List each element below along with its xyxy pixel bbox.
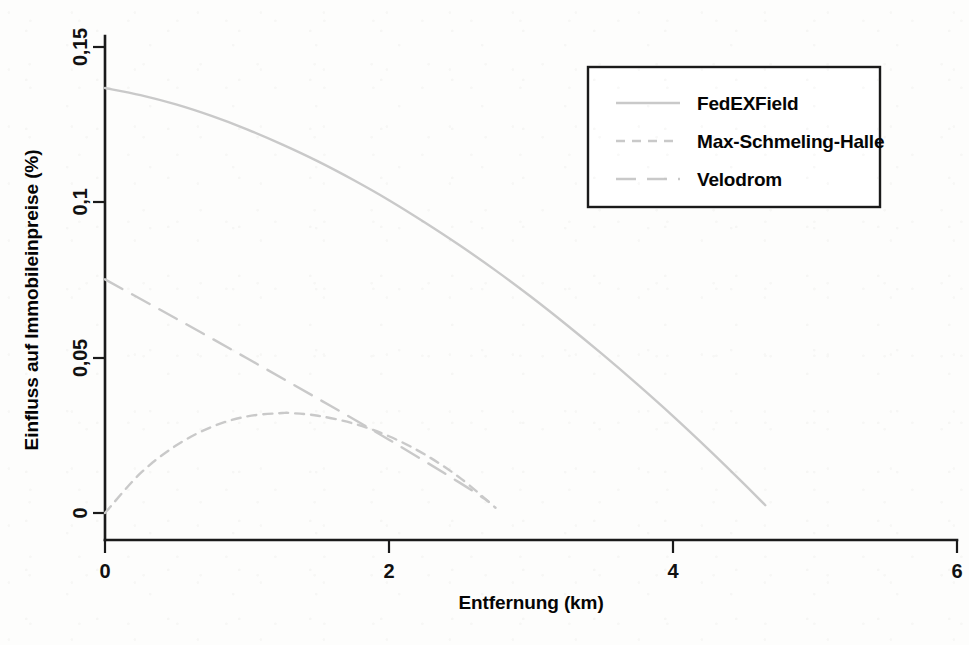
x-tick-label: 6 (952, 560, 963, 582)
y-tick-label: 0,15 (69, 28, 91, 66)
x-tick-label: 2 (384, 560, 395, 582)
y-tick-label: 0 (69, 507, 91, 518)
x-tick-label: 0 (100, 560, 111, 582)
chart-legend: FedEXField Max-Schmeling-Halle Velodrom (588, 67, 884, 207)
y-tick-label: 0,1 (69, 188, 91, 215)
x-axis-title: Entfernung (km) (458, 592, 603, 613)
chart-canvas: 0,15 0,1 0,05 0 0 2 4 6 Entfernung (km) … (0, 0, 969, 645)
legend-label-fedexfield: FedEXField (697, 93, 798, 114)
y-tick-label: 0,05 (69, 339, 91, 377)
x-tick-label: 4 (668, 560, 680, 582)
legend-label-max-schmeling-halle: Max-Schmeling-Halle (697, 131, 884, 152)
chart-figure: 0,15 0,1 0,05 0 0 2 4 6 Entfernung (km) … (0, 0, 969, 645)
legend-label-velodrom: Velodrom (697, 169, 782, 190)
y-axis-title: Einfluss auf Immobileinpreise (%) (21, 150, 42, 451)
